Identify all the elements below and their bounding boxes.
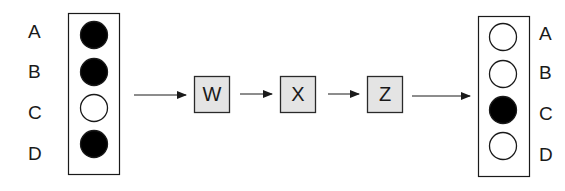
process-box-x: X: [281, 77, 316, 113]
output-circle-d: [490, 133, 517, 160]
output-label-a: A: [539, 23, 552, 44]
process-label-w: W: [203, 83, 222, 105]
input-label-a: A: [28, 21, 41, 42]
output-circle-b: [490, 61, 517, 88]
input-circle-d: [81, 131, 108, 158]
output-circle-a: [490, 24, 517, 51]
input-label-b: B: [28, 61, 41, 82]
process-box-w: W: [195, 77, 230, 113]
input-circle-a: [81, 22, 108, 49]
process-box-z: Z: [368, 77, 403, 113]
input-label-d: D: [28, 143, 42, 164]
diagram-canvas: A B C D W X Z A B C D: [0, 0, 565, 191]
output-labels: A B C D: [539, 23, 553, 165]
process-label-x: X: [291, 83, 304, 105]
input-labels: A B C D: [28, 21, 42, 164]
output-label-b: B: [539, 62, 552, 83]
input-circle-b: [81, 59, 108, 86]
output-circle-c: [490, 97, 517, 124]
output-label-d: D: [539, 144, 553, 165]
input-label-c: C: [28, 102, 42, 123]
output-label-c: C: [539, 103, 553, 124]
input-circle-c: [81, 95, 108, 122]
process-label-z: Z: [379, 83, 391, 105]
